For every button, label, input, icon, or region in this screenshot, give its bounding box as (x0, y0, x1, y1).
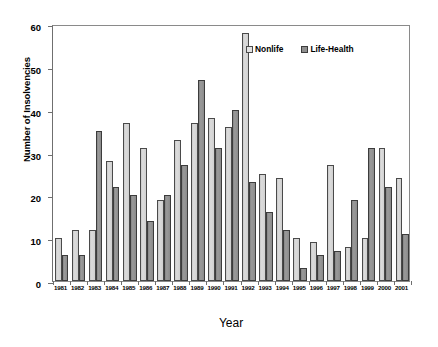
bar-life-health (198, 80, 205, 281)
bar-life-health (62, 255, 69, 281)
x-tick-label: 1991 (225, 284, 238, 291)
bar-group (70, 26, 87, 281)
bar-nonlife (191, 123, 198, 281)
x-tick (411, 281, 412, 285)
legend-label: Nonlife (255, 45, 283, 53)
x-tick-label: 1999 (361, 284, 374, 291)
bar-nonlife (362, 238, 369, 281)
bar-nonlife (157, 200, 164, 281)
bar-life-health (300, 268, 307, 281)
bar-nonlife (396, 178, 403, 281)
bar-nonlife (276, 178, 283, 281)
bar-group (292, 26, 309, 281)
legend-item-nonlife: Nonlife (246, 45, 283, 53)
x-axis-title: Year (52, 316, 410, 330)
bar-life-health (368, 148, 375, 281)
bar-nonlife (225, 127, 232, 281)
bar-nonlife (310, 242, 317, 281)
y-tick-label: 50 (30, 64, 41, 75)
legend-swatch-icon (246, 46, 253, 53)
y-tick-label: 10 (30, 236, 41, 247)
x-tick-label: 1996 (310, 284, 323, 291)
x-axis-tick-labels: 1981198219831984198519861987198819891990… (52, 284, 410, 300)
bar-nonlife (106, 161, 113, 281)
bar-group (53, 26, 70, 281)
bar-group (104, 26, 121, 281)
bar-life-health (113, 187, 120, 281)
bar-life-health (232, 110, 239, 281)
x-tick-label: 1983 (88, 284, 101, 291)
bar-life-health (130, 195, 137, 281)
y-tick-label: 40 (30, 107, 41, 118)
bar-group (172, 26, 189, 281)
x-tick-label: 1986 (139, 284, 152, 291)
insolvency-bar-chart: Number of Insolvencies 0102030405060 198… (0, 0, 438, 347)
bar-group (326, 26, 343, 281)
bar-nonlife (259, 174, 266, 281)
x-tick-label: 1984 (105, 284, 118, 291)
bar-nonlife (72, 230, 79, 281)
bar-group (360, 26, 377, 281)
bar-group (206, 26, 223, 281)
bar-group (87, 26, 104, 281)
bar-nonlife (55, 238, 62, 281)
y-tick-label: 20 (30, 193, 41, 204)
x-tick-label: 1998 (344, 284, 357, 291)
x-tick-label: 1995 (293, 284, 306, 291)
bar-group (258, 26, 275, 281)
chart-legend: NonlifeLife-Health (246, 45, 354, 53)
bar-group (138, 26, 155, 281)
bar-nonlife (89, 230, 96, 281)
x-tick-label: 1985 (122, 284, 135, 291)
bar-life-health (334, 251, 341, 281)
x-tick-label: 1981 (54, 284, 67, 291)
x-tick-label: 1988 (173, 284, 186, 291)
bar-group (121, 26, 138, 281)
bar-life-health (283, 230, 290, 281)
bar-nonlife (379, 148, 386, 281)
bar-life-health (215, 148, 222, 281)
bar-nonlife (140, 148, 147, 281)
bar-nonlife (208, 118, 215, 281)
bar-group (241, 26, 258, 281)
bar-group (223, 26, 240, 281)
bar-nonlife (327, 165, 334, 281)
bar-life-health (96, 131, 103, 281)
bar-life-health (147, 221, 154, 281)
bar-life-health (249, 182, 256, 281)
bar-group (377, 26, 394, 281)
legend-swatch-icon (301, 46, 308, 53)
x-tick-label: 1994 (276, 284, 289, 291)
bar-nonlife (242, 33, 249, 281)
plot-area: 0102030405060 (52, 25, 410, 282)
bar-group (189, 26, 206, 281)
bar-life-health (351, 200, 358, 281)
y-tick-label: 30 (30, 150, 41, 161)
bar-group (343, 26, 360, 281)
bar-life-health (79, 255, 86, 281)
bar-series-container (53, 26, 409, 281)
bar-group (394, 26, 411, 281)
bar-group (275, 26, 292, 281)
x-tick-label: 2001 (395, 284, 408, 291)
x-tick-label: 1992 (242, 284, 255, 291)
x-tick-label: 1990 (207, 284, 220, 291)
bar-group (309, 26, 326, 281)
bar-nonlife (123, 123, 130, 281)
x-tick-label: 1989 (190, 284, 203, 291)
x-tick-label: 2000 (378, 284, 391, 291)
x-tick-label: 1993 (259, 284, 272, 291)
bar-life-health (385, 187, 392, 281)
bar-group (155, 26, 172, 281)
y-tick-label: 60 (30, 22, 41, 33)
bar-life-health (181, 165, 188, 281)
bar-life-health (402, 234, 409, 281)
bar-nonlife (345, 247, 352, 281)
legend-item-life-health: Life-Health (301, 45, 353, 53)
bar-life-health (317, 255, 324, 281)
x-tick-label: 1997 (327, 284, 340, 291)
y-tick-label: 0 (36, 279, 41, 290)
legend-label: Life-Health (310, 45, 353, 53)
bar-nonlife (174, 140, 181, 281)
bar-nonlife (293, 238, 300, 281)
